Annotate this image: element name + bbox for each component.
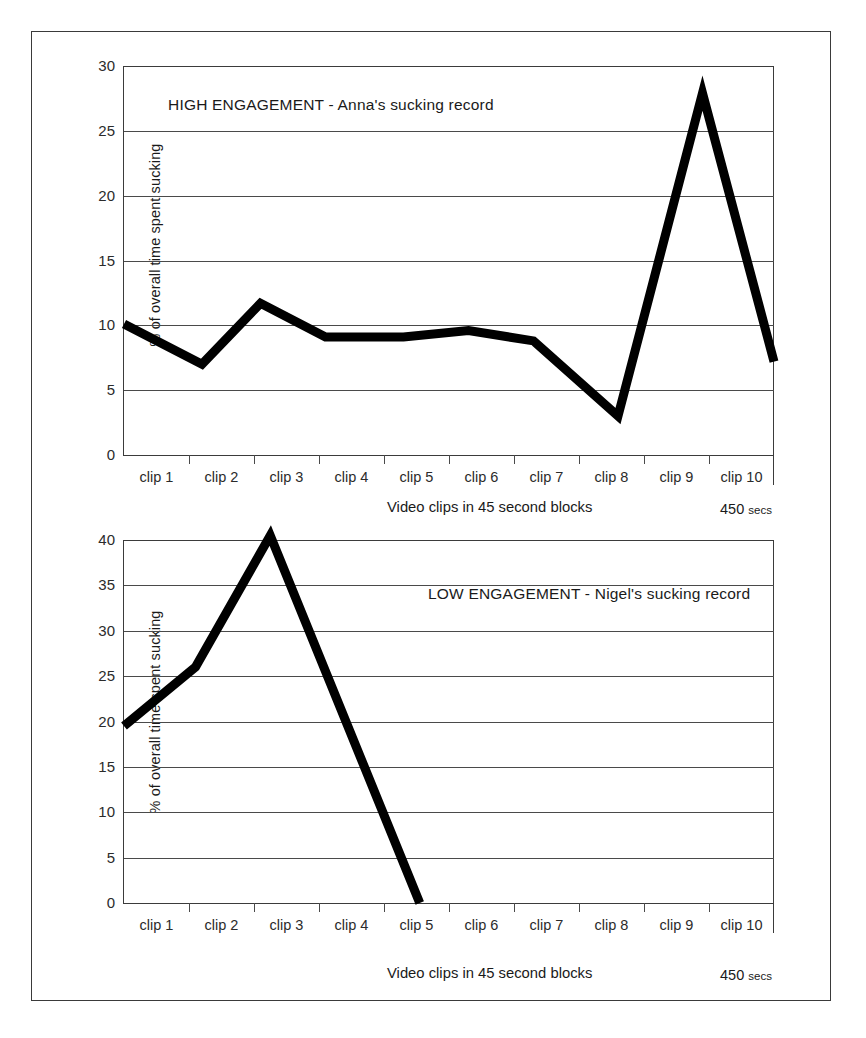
y-tick-label-high-10: 10 (98, 316, 115, 333)
x-tick-label-low-7: clip 7 (530, 917, 564, 933)
gridline-high-25 (124, 131, 774, 132)
x-tick-low-3 (319, 903, 320, 912)
x-tick-label-low-4: clip 4 (335, 917, 369, 933)
figure-frame: % of overall time spent sucking 05101520… (31, 31, 831, 1001)
x-tick-label-high-4: clip 4 (335, 469, 369, 485)
x-axis-end-note-high: 450 secs (720, 501, 772, 517)
x-tick-low-6 (514, 903, 515, 912)
x-tick-label-low-5: clip 5 (400, 917, 434, 933)
y-tick-label-high-30: 30 (98, 57, 115, 74)
y-tick-label-low-5: 5 (107, 849, 115, 866)
y-tick-label-high-5: 5 (107, 381, 115, 398)
x-tick-low-7 (579, 903, 580, 912)
gridline-low-40 (124, 540, 774, 541)
x-axis-label-low: Video clips in 45 second blocks (387, 965, 592, 981)
x-tick-label-low-9: clip 9 (660, 917, 694, 933)
gridline-low-5 (124, 858, 774, 859)
x-tick-label-high-6: clip 6 (465, 469, 499, 485)
y-tick-label-low-25: 25 (98, 667, 115, 684)
y-tick-label-high-0: 0 (107, 446, 115, 463)
x-tick-label-low-10: clip 10 (721, 917, 763, 933)
x-tick-high-1 (189, 455, 190, 464)
gridline-high-5 (124, 390, 774, 391)
gridline-high-15 (124, 261, 774, 262)
x-end-unit-high: secs (748, 504, 772, 516)
x-tick-label-low-3: clip 3 (270, 917, 304, 933)
x-axis-end-note-low: 450 secs (720, 967, 772, 983)
x-end-unit-low: secs (748, 970, 772, 982)
x-tick-label-high-2: clip 2 (205, 469, 239, 485)
plot-right-edge-foot-high (773, 455, 774, 485)
y-tick-label-high-20: 20 (98, 187, 115, 204)
chart-panel-low-engagement: % of overall time spent sucking 05101520… (32, 522, 832, 987)
x-tick-label-low-6: clip 6 (465, 917, 499, 933)
x-tick-low-2 (254, 903, 255, 912)
x-end-value-high: 450 (720, 501, 744, 517)
x-tick-low-9 (709, 903, 710, 912)
x-tick-label-high-3: clip 3 (270, 469, 304, 485)
plot-right-edge-foot-low (773, 903, 774, 933)
x-tick-label-low-8: clip 8 (595, 917, 629, 933)
gridline-high-10 (124, 325, 774, 326)
x-tick-low-4 (384, 903, 385, 912)
x-tick-label-high-10: clip 10 (721, 469, 763, 485)
gridline-low-30 (124, 631, 774, 632)
x-end-value-low: 450 (720, 967, 744, 983)
y-tick-label-high-15: 15 (98, 252, 115, 269)
x-tick-label-low-2: clip 2 (205, 917, 239, 933)
x-tick-high-3 (319, 455, 320, 464)
x-tick-high-6 (514, 455, 515, 464)
y-tick-label-low-30: 30 (98, 622, 115, 639)
gridline-low-20 (124, 722, 774, 723)
gridline-high-20 (124, 196, 774, 197)
plot-area-high: 051015202530clip 1clip 2clip 3clip 4clip… (123, 66, 774, 456)
y-tick-label-low-10: 10 (98, 803, 115, 820)
y-tick-label-low-15: 15 (98, 758, 115, 775)
x-tick-high-7 (579, 455, 580, 464)
y-tick-label-low-35: 35 (98, 577, 115, 594)
gridline-low-15 (124, 767, 774, 768)
x-tick-label-high-9: clip 9 (660, 469, 694, 485)
x-tick-high-9 (709, 455, 710, 464)
x-tick-high-5 (449, 455, 450, 464)
gridline-low-25 (124, 676, 774, 677)
gridline-low-10 (124, 812, 774, 813)
x-tick-low-1 (189, 903, 190, 912)
x-tick-label-high-7: clip 7 (530, 469, 564, 485)
x-tick-label-high-1: clip 1 (140, 469, 174, 485)
x-tick-high-4 (384, 455, 385, 464)
gridline-high-30 (124, 66, 774, 67)
chart-panel-high-engagement: % of overall time spent sucking 05101520… (32, 40, 832, 510)
x-tick-label-low-1: clip 1 (140, 917, 174, 933)
x-tick-label-high-8: clip 8 (595, 469, 629, 485)
y-tick-label-high-25: 25 (98, 122, 115, 139)
x-tick-label-high-5: clip 5 (400, 469, 434, 485)
x-tick-low-8 (644, 903, 645, 912)
y-tick-label-low-40: 40 (98, 531, 115, 548)
y-tick-label-low-20: 20 (98, 713, 115, 730)
x-tick-high-2 (254, 455, 255, 464)
x-tick-high-8 (644, 455, 645, 464)
y-tick-label-low-0: 0 (107, 894, 115, 911)
chart-title-low: LOW ENGAGEMENT - Nigel's sucking record (428, 585, 750, 603)
chart-title-high: HIGH ENGAGEMENT - Anna's sucking record (168, 96, 494, 114)
x-axis-label-high: Video clips in 45 second blocks (387, 499, 592, 515)
x-tick-low-5 (449, 903, 450, 912)
